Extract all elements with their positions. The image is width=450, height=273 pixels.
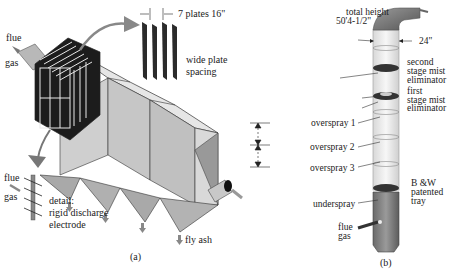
- height-dimension: [250, 123, 270, 167]
- wide-plate-label: wide plate: [186, 55, 227, 65]
- first-stage-label-3: eliminator: [407, 104, 446, 113]
- second-stage-label-3: eliminator: [407, 76, 446, 85]
- fly-ash-label: fly ash: [185, 235, 212, 245]
- rigid-discharge-label: rigid discharge: [49, 208, 109, 218]
- detail-gas-label: gas: [4, 192, 17, 202]
- spacing-label: spacing: [186, 67, 217, 77]
- caption-b: (b): [380, 258, 392, 268]
- tower-gas-label: gas: [338, 232, 351, 241]
- caption-a: (a): [130, 252, 141, 262]
- collecting-plates: [142, 22, 177, 80]
- underspray-label: underspray: [313, 200, 355, 209]
- total-height-value: 50'4-1/2": [336, 17, 371, 26]
- plates-count-label: 7 plates 16": [178, 9, 225, 19]
- diagram-canvas: [0, 0, 450, 273]
- inlet-flue-label: flue: [6, 33, 22, 43]
- electrode-label: electrode: [49, 220, 86, 230]
- plate-spacing-dimension: [140, 8, 173, 20]
- diameter-label: 24": [419, 37, 432, 46]
- detail-label: detail:: [49, 196, 74, 206]
- detail-flue-label: flue: [4, 173, 20, 183]
- overspray-2-label: overspray 2: [310, 143, 355, 152]
- tray-label-3: tray: [411, 197, 426, 206]
- inlet-gas-label: gas: [5, 58, 18, 68]
- precipitator-illustration: [12, 16, 242, 245]
- overspray-3-label: overspray 3: [310, 164, 355, 173]
- overspray-1-label: overspray 1: [311, 119, 356, 128]
- scrubber-tower-illustration: [340, 8, 428, 252]
